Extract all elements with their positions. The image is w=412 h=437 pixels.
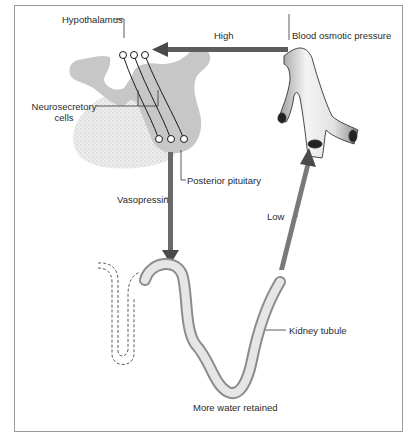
vasopressin-label: Vasopressin	[117, 194, 169, 205]
posterior-pituitary-leader	[181, 150, 186, 180]
hypothalamus-label: Hypothalamus	[62, 14, 123, 25]
blood-osmotic-pressure-label: Blood osmotic pressure	[292, 30, 391, 41]
low-arrow	[279, 148, 316, 270]
more-water-retained-label: More water retained	[193, 402, 277, 413]
neurosecretory-label-line1: Neurosecretory	[30, 101, 98, 112]
high-label: High	[214, 30, 234, 41]
blood-vessel	[278, 48, 358, 158]
kidney-tubule-label: Kidney tubule	[289, 325, 347, 336]
neurosecretory-label-line2: cells	[30, 112, 98, 123]
posterior-pituitary-label: Posterior pituitary	[187, 175, 261, 186]
neurosecretory-cells-label: Neurosecretory cells	[30, 101, 98, 123]
vasopressin-arrow	[162, 152, 179, 264]
low-label: Low	[267, 211, 284, 222]
high-arrow	[152, 42, 288, 57]
diagram-artwork	[0, 0, 412, 437]
